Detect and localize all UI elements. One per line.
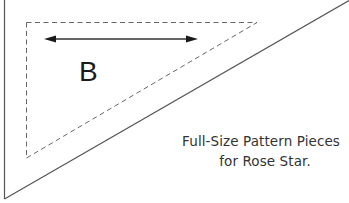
caption-line-1: Full-Size Pattern Pieces [160,131,340,151]
caption-line-2: for Rose Star. [160,151,340,171]
piece-label: B [79,58,98,86]
caption: Full-Size Pattern Pieces for Rose Star. [160,131,340,171]
grainline-arrow-icon [44,36,198,43]
pattern-diagram [0,0,349,203]
